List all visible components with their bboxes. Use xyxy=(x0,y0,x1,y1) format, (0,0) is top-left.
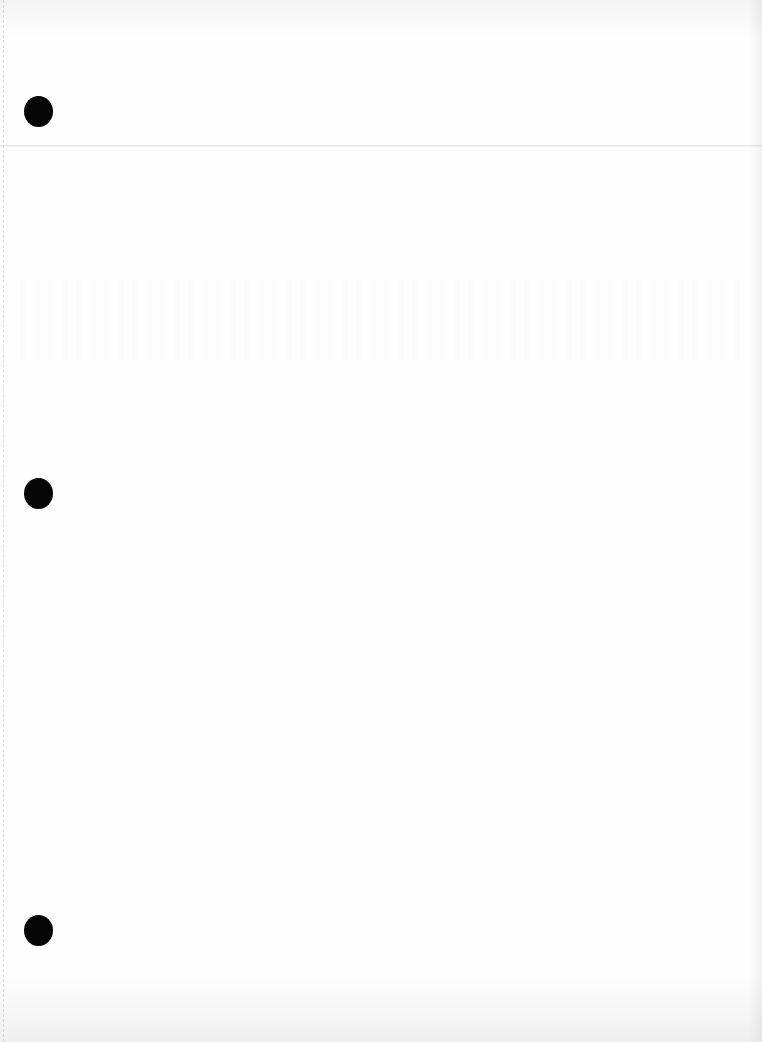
faint-bleed-through xyxy=(20,280,742,360)
fold-line xyxy=(0,145,762,147)
punch-hole-bottom xyxy=(24,915,53,946)
blank-page xyxy=(0,0,762,1042)
punch-hole-top xyxy=(24,96,53,127)
page-left-edge xyxy=(3,0,4,1042)
punch-hole-middle xyxy=(24,478,53,509)
